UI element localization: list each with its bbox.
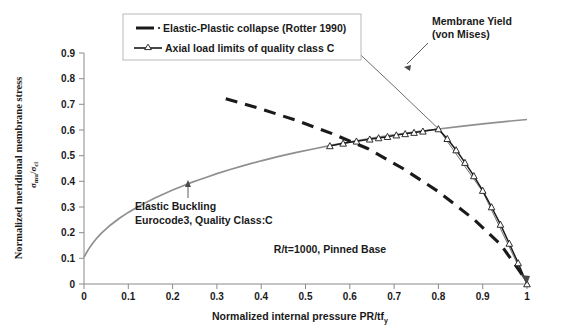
y-tick-label: 0.7 <box>61 99 75 110</box>
x-axis-title-main: Normalized internal pressure PR/tf <box>212 310 385 322</box>
annotation-line-2: Eurocode3, Quality Class:C <box>135 214 273 226</box>
y-axis-title-group: Normalized meridional membrane stress <box>13 77 24 260</box>
y-tick-label: 0.1 <box>61 253 75 264</box>
y-axis-title: Normalized meridional membrane stress <box>13 77 24 260</box>
y-tick-marks <box>79 53 84 284</box>
sigma-mu-subscript: mu <box>32 174 39 183</box>
x-tick-label: 1 <box>524 291 530 302</box>
annotation-geometry-note: R/t=1000, Pinned Base <box>274 243 387 255</box>
x-tick-marks <box>84 284 527 289</box>
legend-label: Axial load limits of quality class C <box>165 42 335 54</box>
annotation-membrane-yield: Membrane Yield (von Mises) <box>404 15 512 71</box>
legend: Elastic-Plastic collapse (Rotter 1990) A… <box>123 14 361 60</box>
y-tick-label: 0 <box>69 279 75 290</box>
annotation-line-1: Membrane Yield <box>432 15 512 27</box>
x-tick-label: 0.2 <box>166 291 180 302</box>
x-tick-label: 0.8 <box>431 291 445 302</box>
y-tick-label: 0.4 <box>61 176 75 187</box>
annotation-line-2: (von Mises) <box>432 28 490 40</box>
annotation-arrowhead <box>404 65 411 71</box>
x-tick-label: 0.4 <box>254 291 268 302</box>
chart-svg: 0 0.1 0.2 0.3 0.4 0.5 0.6 0.7 0.8 0.9 0 … <box>0 0 572 328</box>
y-tick-label: 0.2 <box>61 227 75 238</box>
y-axis-subtitle-group: σmu/σcl <box>28 162 39 188</box>
x-tick-label: 0 <box>81 291 87 302</box>
legend-item-elastic-plastic[interactable]: Elastic-Plastic collapse (Rotter 1990) <box>136 22 346 34</box>
y-axis-symbol: σmu/σcl <box>28 162 39 188</box>
x-tick-labels: 0 0.1 0.2 0.3 0.4 0.5 0.6 0.7 0.8 0.9 1 <box>81 291 530 302</box>
x-tick-label: 0.9 <box>476 291 490 302</box>
x-tick-label: 0.7 <box>387 291 401 302</box>
y-tick-label: 0.5 <box>61 150 75 161</box>
legend-dot-icon <box>158 27 160 29</box>
y-tick-label: 0.3 <box>61 202 75 213</box>
x-tick-label: 0.1 <box>121 291 135 302</box>
legend-label: Elastic-Plastic collapse (Rotter 1990) <box>163 22 346 34</box>
x-tick-label: 0.6 <box>343 291 357 302</box>
series-axial-load-limits <box>330 129 527 284</box>
x-tick-label: 0.3 <box>210 291 224 302</box>
y-tick-label: 0.6 <box>61 125 75 136</box>
y-tick-labels: 0 0.1 0.2 0.3 0.4 0.5 0.6 0.7 0.8 0.9 <box>61 48 75 290</box>
annotation-line-1: Elastic Buckling <box>135 200 216 212</box>
x-tick-label: 0.5 <box>299 291 313 302</box>
x-axis-title: Normalized internal pressure PR/tfy <box>212 310 388 325</box>
y-tick-label: 0.8 <box>61 73 75 84</box>
annotation-line-1: R/t=1000, Pinned Base <box>274 243 387 255</box>
series-axial-markers <box>327 126 531 287</box>
series-elastic-buckling <box>84 119 527 257</box>
annotation-leader-line <box>407 43 428 64</box>
sigma-cl-subscript: cl <box>32 162 39 167</box>
x-axis-title-subscript: y <box>384 317 388 325</box>
y-tick-label: 0.9 <box>61 48 75 59</box>
chart-figure: 0 0.1 0.2 0.3 0.4 0.5 0.6 0.7 0.8 0.9 0 … <box>0 0 572 328</box>
legend-item-axial-load[interactable]: Axial load limits of quality class C <box>134 42 335 54</box>
annotation-elastic-buckling: Elastic Buckling Eurocode3, Quality Clas… <box>135 180 273 226</box>
